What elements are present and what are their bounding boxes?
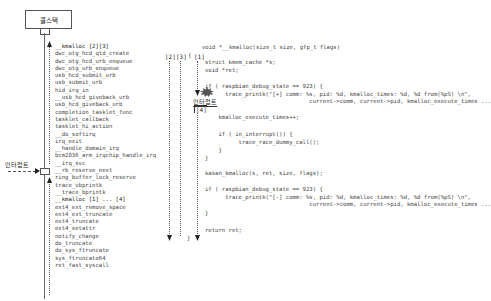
up-arrow-icon [47, 177, 52, 183]
frame: dwc_otg_hcd_qtd_create [55, 50, 156, 57]
code-line: trace_printk("[+] comm: %s, pid: %d, kma… [178, 91, 471, 97]
frame: tasklet_callback [55, 116, 156, 123]
frame: ext4_setattr [55, 225, 156, 232]
lower-flow-line [49, 182, 50, 295]
frame: bcm2836_arm_irqchip_handle_irq [55, 152, 156, 159]
code-line: } [178, 210, 208, 216]
frame: __irq_svc [55, 160, 156, 167]
code-line: return ret; [178, 227, 242, 233]
code-line: trace_race_dummy_call(); [178, 139, 319, 145]
frame: ret_fast_syscall [55, 262, 156, 269]
frame: __usb_hcd_giveback_urb [55, 94, 156, 101]
code-line: kasan_kmalloc(s, ret, size, flags); [178, 170, 323, 176]
frame: notify_change [55, 233, 156, 240]
code-line: void *ret; [178, 67, 239, 73]
up-arrow-icon [47, 41, 52, 47]
code-line: } [178, 147, 222, 153]
code-line: kmalloc_execute_times++; [178, 114, 299, 120]
frame: ext4_ext_remove_space [55, 204, 156, 211]
frame: ext4_truncate [55, 218, 156, 225]
frame: dwc_otg_urb_enqueue [55, 65, 156, 72]
frame: usb_hcd_giveback_urb [55, 101, 156, 108]
frame: trace_vbprintk [55, 182, 156, 189]
frame: hid_irq_in [55, 87, 156, 94]
callstack-connector [40, 28, 50, 35]
frame: usb_submit_urb [55, 79, 156, 86]
frame: irq_exit [55, 138, 156, 145]
code-line: current->comm, current->pid, kmalloc_exe… [178, 201, 491, 207]
stack-axis-line [44, 33, 45, 299]
frame: tasklet_hi_action [55, 123, 156, 130]
down-arrow-icon [195, 235, 200, 241]
interrupt-label-left: 인터럽트 [5, 160, 29, 169]
frame: __kmalloc [1] ... [4] [55, 196, 156, 203]
callstack-title: 콜스택 [40, 15, 58, 25]
code-line: if ( raspbian_debug_state == 923) { [178, 186, 323, 192]
code-line: current->comm, current->pid, kmalloc_exe… [178, 98, 491, 104]
code-line: { [188, 52, 191, 58]
frame: __handle_domain_irq [55, 145, 156, 152]
code-line: if ( raspbian_debug_state == 923) { [178, 83, 323, 89]
frame: dwc_otg_hcd_urb_enqueue [55, 58, 156, 65]
callstack-box: 콜스택 [25, 10, 72, 29]
interrupt-arrow-line [8, 171, 36, 172]
interrupt-entry-box [40, 168, 50, 175]
upper-flow-line [49, 46, 50, 164]
marker-2: [2] [165, 53, 176, 60]
frame: __do_softirq [55, 131, 156, 138]
code-line: trace_printk("[-] comm: %s, pid: %d, kma… [178, 194, 471, 200]
marker-4: [4] [194, 105, 207, 113]
code-line: if ( in_interrupt()) { [178, 131, 293, 137]
code-line: } [187, 235, 190, 241]
frame: completion_tasklet_func [55, 109, 156, 116]
frame: __kmalloc [2][3] [55, 43, 156, 50]
code-line: struct kmem_cache *s; [178, 59, 276, 65]
frame: do_sys_ftruncate [55, 247, 156, 254]
frame: ext4_ext_truncate [55, 211, 156, 218]
code-line: } [178, 155, 208, 161]
frame: do_truncate [55, 240, 156, 247]
frame: __trace_bprintk [55, 189, 156, 196]
callstack-frames: __kmalloc [2][3] dwc_otg_hcd_qtd_create … [55, 43, 156, 269]
interrupt-arrow-icon [35, 168, 41, 174]
frame: usb_hcd_submit_urb [55, 72, 156, 79]
down-arrow-icon [167, 235, 172, 241]
frame: __rb_reserve_next [55, 167, 156, 174]
frame: ring_buffer_lock_reserve [55, 174, 156, 181]
code-line: void *__kmalloc(size_t size, gfp_t flags… [202, 44, 340, 50]
frame: sys_ftruncate64 [55, 255, 156, 262]
flow-line-2 [169, 61, 170, 236]
